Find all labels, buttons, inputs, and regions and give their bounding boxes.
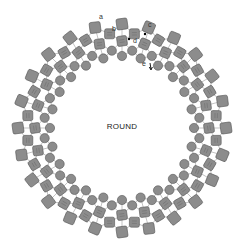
two-hole-square-bead [129,217,139,227]
square-bead [167,31,181,45]
two-hole-square-bead [191,179,205,193]
round-bead [99,54,108,63]
two-hole-square-bead [40,164,54,178]
two-hole-square-bead [173,46,187,60]
two-hole-square-bead [139,206,150,217]
annotation-a: a [99,13,103,20]
square-bead-body [57,46,71,60]
two-hole-square-bead [203,122,214,133]
square-bead-body [24,172,39,187]
square-bead [62,30,77,45]
round-bead [189,153,198,162]
square-bead-body [211,111,221,121]
square-bead-body [12,122,24,134]
round-bead [195,113,204,122]
square-bead [89,21,101,33]
round-bead [179,76,188,85]
square-bead-body [79,209,93,223]
two-hole-square-bead [40,179,54,193]
square-bead [166,210,181,225]
square-bead-body [40,78,53,91]
annotation-d: d [133,37,137,44]
round-bead [187,105,196,114]
two-hole-square-bead [191,165,204,178]
round-bead [153,186,162,195]
two-hole-square-bead [203,158,217,172]
square-bead-body [15,149,27,161]
square-bead-body [143,222,155,234]
two-hole-square-bead [152,209,166,223]
two-hole-square-bead [23,135,33,145]
round-bead [55,159,64,168]
two-hole-square-bead [71,46,85,60]
square-bead-body [116,209,127,220]
square-bead-body [215,148,229,162]
round-bead [195,134,204,143]
arrow-icon [149,63,152,70]
round-bead [88,51,97,60]
round-bead [189,123,198,132]
round-bead [88,195,97,204]
round-bead [147,51,156,60]
round-bead [40,113,49,122]
square-bead-body [94,38,105,49]
square-bead-body [200,100,211,111]
two-hole-square-bead [211,135,221,145]
square-bead [25,69,39,83]
two-hole-square-bead [23,111,33,121]
two-hole-square-bead [152,33,166,47]
round-bead [48,142,57,151]
square-bead-body [203,85,217,99]
two-hole-square-bead [116,209,127,220]
square-bead-body [166,210,181,225]
square-bead-body [211,135,221,145]
square-bead-body [191,63,205,77]
square-bead-body [40,63,54,77]
round-bead [147,195,156,204]
square-bead-body [191,165,204,178]
annotation-e: e [142,60,146,67]
square-bead [220,122,232,134]
round-bead [70,185,79,194]
round-bead [107,201,116,210]
square-bead-body [191,179,205,193]
square-bead-body [63,211,77,225]
square-bead-body [71,46,85,60]
square-bead-body [23,135,33,145]
round-bead [107,46,116,55]
square-bead-body [25,69,39,83]
square-bead [204,68,219,83]
square-bead-body [116,226,128,238]
square-bead [143,222,155,234]
square-bead-body [89,21,101,33]
round-bead [99,193,108,202]
round-bead [168,72,177,81]
square-bead-body [116,35,127,46]
round-bead [136,193,145,202]
square-bead-body [203,122,214,133]
square-bead-body [29,122,40,133]
square-bead-body [173,46,187,60]
round-bead [55,87,64,96]
square-bead [116,18,128,30]
square-bead-body [23,111,33,121]
round-bead [187,142,196,151]
square-bead-body [105,217,115,227]
square-bead-body [139,206,150,217]
round-bead [48,105,57,114]
two-hole-square-bead [159,46,172,59]
two-hole-square-bead [40,78,53,91]
two-hole-square-bead [191,63,205,77]
round-bead [117,51,126,60]
round-bead [180,159,189,168]
round-bead [81,61,90,70]
two-hole-square-bead [190,77,204,91]
two-hole-square-bead [40,63,54,77]
two-hole-square-bead [116,35,127,46]
square-bead-body [14,94,28,108]
square-bead-body [116,18,128,30]
two-hole-square-bead [173,197,187,211]
square-bead-body [203,158,217,172]
square-bead-body [72,197,85,210]
square-bead [88,221,102,235]
